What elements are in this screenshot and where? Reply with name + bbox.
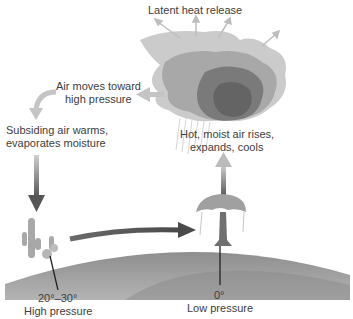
label-rising-line1: Hot, moist air rises, (180, 128, 274, 141)
label-air-moves-line2: high pressure (65, 93, 132, 106)
label-latitude-high: 20°–30° (38, 292, 77, 305)
label-latitude-equator: 0° (214, 289, 225, 302)
arrow-curve-down (29, 92, 56, 120)
cactus-icon (22, 218, 58, 259)
label-air-moves-line1: Air moves toward (56, 80, 141, 93)
arrow-surface-flow (70, 222, 196, 239)
label-latent-heat: Latent heat release (148, 4, 242, 17)
arrow-rising-up (215, 152, 232, 197)
tree-icon (196, 194, 246, 246)
arrow-subsiding-down (28, 155, 45, 212)
hadley-cell-illustration (0, 0, 353, 319)
label-rising-line2: expands, cools (190, 141, 263, 154)
label-subsiding-line2: evaporates moisture (6, 137, 106, 150)
label-low-pressure: Low pressure (187, 302, 253, 315)
label-high-pressure: High pressure (24, 305, 92, 318)
label-subsiding-line1: Subsiding air warms, (6, 124, 108, 137)
